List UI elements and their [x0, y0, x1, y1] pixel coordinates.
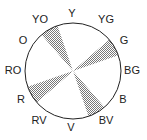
- wedge-bv: [73, 71, 104, 116]
- wedge-g: [73, 40, 118, 71]
- label-r: R: [17, 93, 25, 105]
- label-g: G: [120, 34, 129, 46]
- wedge-r: [28, 71, 73, 102]
- label-v: V: [67, 121, 74, 133]
- wedge-yo: [42, 26, 73, 71]
- shaded-wedges: [28, 26, 119, 117]
- label-o: O: [19, 34, 28, 46]
- label-bv: BV: [99, 114, 114, 126]
- label-ro: RO: [5, 64, 22, 76]
- label-rv: RV: [31, 114, 46, 126]
- label-y: Y: [68, 7, 75, 19]
- label-bg: BG: [124, 64, 140, 76]
- label-yo: YO: [32, 13, 48, 25]
- label-yg: YG: [98, 13, 114, 25]
- label-b: B: [119, 93, 126, 105]
